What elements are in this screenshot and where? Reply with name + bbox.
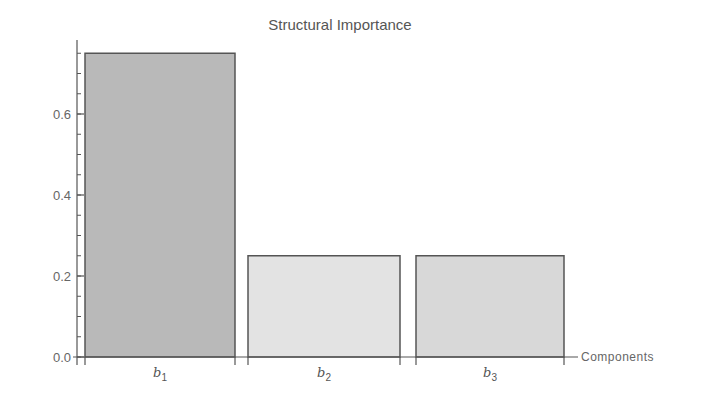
y-tick-label: 0.4 — [53, 188, 71, 203]
y-tick-label: 0.0 — [53, 350, 71, 365]
x-tick-label: b1 — [153, 365, 167, 383]
bar-chart: Structural Importance 0.00.20.40.6 b1b2b… — [0, 0, 720, 400]
y-tick-label: 0.2 — [53, 269, 71, 284]
x-axis-label: Components — [581, 350, 654, 364]
y-axis: 0.00.20.40.6 — [53, 40, 84, 365]
x-tick-label: b2 — [317, 365, 331, 383]
bar-b3 — [416, 256, 564, 357]
y-tick-label: 0.6 — [53, 107, 71, 122]
chart-title: Structural Importance — [268, 16, 411, 33]
x-tick-label: b3 — [483, 365, 497, 383]
bar-b1 — [85, 53, 235, 357]
x-axis: b1b2b3 — [73, 357, 578, 383]
bars — [85, 53, 564, 357]
bar-b2 — [248, 256, 400, 357]
